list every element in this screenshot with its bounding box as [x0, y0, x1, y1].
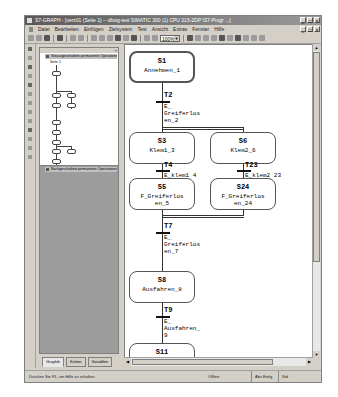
branch-open-icon[interactable] [28, 74, 32, 78]
transition-label: T4 [164, 161, 172, 169]
transition-condition: E_ Greiferlos en_7 [164, 234, 200, 255]
tab-ketten[interactable]: Ketten [66, 357, 86, 367]
transition-condition: E_ Greiferlos en_2 [164, 103, 200, 124]
step-s11[interactable]: S11 Einfahren_11 [129, 343, 195, 358]
maximize-button[interactable]: □ [307, 17, 313, 23]
menu-zielsystem[interactable]: Zielsystem [109, 25, 133, 33]
transition-label: T2 [164, 91, 172, 99]
tab-graphik[interactable]: Graphik [42, 357, 64, 367]
menu-datei[interactable]: Datei [38, 25, 50, 33]
comment-icon[interactable] [28, 128, 32, 132]
vertical-scroll-thumb[interactable] [313, 52, 320, 262]
scroll-right-icon[interactable]: ▶ [306, 358, 313, 366]
print-icon[interactable] [57, 35, 63, 41]
operations-icon [46, 55, 49, 58]
zoom-in-icon[interactable] [243, 35, 249, 41]
left-tool-strip [25, 44, 36, 368]
cut-icon[interactable] [91, 35, 97, 41]
vertical-scrollbar[interactable]: ▲ ▼ [312, 44, 320, 358]
menu-bearbeiten[interactable]: Bearbeiten [55, 25, 79, 33]
overview-icon[interactable] [235, 35, 241, 41]
zoom-select[interactable]: 100% ▼ [160, 35, 180, 42]
download-icon[interactable] [115, 35, 121, 41]
preview-step [67, 149, 76, 154]
app-icon [27, 18, 32, 23]
undo-icon[interactable] [70, 35, 76, 41]
preview-step [52, 140, 61, 145]
paste-icon[interactable] [107, 35, 113, 41]
scroll-down-icon[interactable]: ▼ [313, 351, 320, 358]
new-icon[interactable] [28, 35, 34, 41]
tree-node-pre-operations[interactable]: Vorausgeschaltete permanente Operationen [45, 54, 117, 59]
preview-step [52, 149, 61, 154]
sfc-canvas[interactable]: S1 Annehmen_1 T2 E_ Greiferlos en_2 S3 K… [124, 44, 313, 358]
status-hint: Drücken Sie F1, um Hilfe zu erhalten. [29, 371, 95, 382]
step-s8[interactable]: S8 Ausfahren_8 [129, 271, 195, 303]
contact-icon[interactable] [28, 137, 32, 141]
step-s5[interactable]: S5 F_Greiferlos en_5 [129, 178, 195, 210]
transition-condition: E_ Ausfahren_ 9 [164, 318, 200, 339]
overview-tree[interactable]: Vorausgeschaltete permanente Operationen… [40, 53, 118, 166]
simultaneous-branch-open [162, 127, 244, 130]
scroll-up-icon[interactable]: ▲ [313, 44, 320, 51]
zoom-value: 100% [162, 36, 175, 42]
status-insert: Abs Einfg [251, 371, 272, 382]
tab-variablen[interactable]: Variablen [88, 357, 113, 367]
help-icon[interactable] [144, 35, 150, 41]
branch-close-icon[interactable] [28, 83, 32, 87]
toolbar-separator [53, 35, 54, 42]
doc-close-button[interactable]: × [314, 26, 320, 32]
doc-minimize-button[interactable]: _ [300, 26, 306, 32]
toolbar: 100% ▼ [25, 33, 321, 44]
preview-step [52, 130, 61, 135]
step-s24[interactable]: S24 F_Greiferlos en_24 [210, 178, 276, 210]
sim-branch-icon[interactable] [28, 119, 32, 123]
box-icon[interactable] [28, 146, 32, 150]
scroll-left-icon[interactable]: ◀ [124, 358, 131, 366]
preview-step [52, 159, 61, 164]
tree-node-page[interactable]: Seite 1 [50, 60, 61, 64]
branch-icon[interactable] [203, 35, 209, 41]
minimize-button[interactable]: _ [300, 17, 306, 23]
open-icon[interactable] [36, 35, 42, 41]
tree-node-post-operations[interactable]: Nachgeschaltete permanente Operationen [45, 167, 117, 172]
menu-fenster[interactable]: Fenster [192, 25, 209, 33]
select-icon[interactable] [28, 56, 32, 60]
transition-icon[interactable] [195, 35, 201, 41]
compare-icon[interactable] [28, 155, 32, 159]
simultaneous-branch-close [162, 215, 244, 218]
save-icon[interactable] [44, 35, 50, 41]
alt-branch-icon[interactable] [28, 110, 32, 114]
sfc-element-icon[interactable] [219, 35, 225, 41]
zoom-out-icon[interactable] [251, 35, 257, 41]
lock-icon[interactable] [28, 47, 32, 51]
chain-end-icon[interactable] [28, 101, 32, 105]
fit-page-icon[interactable] [259, 35, 265, 41]
online-icon[interactable] [131, 35, 137, 41]
doc-restore-button[interactable]: □ [307, 26, 313, 32]
horizontal-scrollbar[interactable]: ◀ ▶ [124, 357, 313, 366]
whats-this-icon[interactable] [152, 35, 158, 41]
sequence-line [162, 303, 163, 343]
monitor-icon[interactable] [123, 35, 129, 41]
step-s6[interactable]: S6 Klem2_6 [210, 132, 276, 164]
menu-test[interactable]: Test [138, 25, 147, 33]
jump-icon[interactable] [211, 35, 217, 41]
jump-icon[interactable] [28, 92, 32, 96]
step-s1[interactable]: S1 Annehmen_1 [129, 51, 195, 83]
preview-line [56, 146, 72, 147]
menu-ansicht[interactable]: Ansicht [152, 25, 168, 33]
menu-extras[interactable]: Extras [173, 25, 187, 33]
menu-hilfe[interactable]: Hilfe [214, 25, 224, 33]
copy-icon[interactable] [99, 35, 105, 41]
preview-step [67, 93, 76, 98]
step-s3[interactable]: S3 Klem1_3 [129, 132, 195, 164]
horizontal-scroll-thumb[interactable] [132, 359, 273, 365]
menu-einfuegen[interactable]: Einfügen [84, 25, 104, 33]
redo-icon[interactable] [78, 35, 84, 41]
app-window: S7-GRAPH - [verz01 (Seite 1) -- dbsig-te… [24, 15, 322, 383]
table-icon[interactable] [227, 35, 233, 41]
close-button[interactable]: × [314, 17, 320, 23]
step-icon[interactable] [187, 35, 193, 41]
step-transition-icon[interactable] [28, 65, 32, 69]
